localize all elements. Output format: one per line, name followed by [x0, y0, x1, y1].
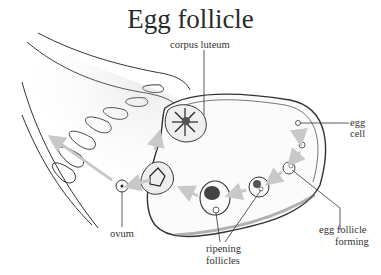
ripening-follicle-large: [200, 181, 230, 215]
label-corpus-luteum: corpus luteum: [170, 39, 230, 50]
ovum-structure: [116, 180, 128, 192]
forming-follicle: [283, 162, 295, 174]
ripening-follicle-small: [249, 177, 269, 197]
label-forming: forming: [335, 236, 369, 247]
label-ripening: ripening: [206, 243, 241, 254]
egg-cell: [296, 121, 301, 126]
label-cell: cell: [350, 128, 365, 139]
label-egg-follicle: egg follicle: [319, 224, 367, 235]
corpus-luteum-structure: [165, 105, 206, 142]
label-egg: egg: [350, 117, 365, 128]
label-ovum: ovum: [110, 228, 134, 239]
label-follicles: follicles: [206, 255, 240, 266]
